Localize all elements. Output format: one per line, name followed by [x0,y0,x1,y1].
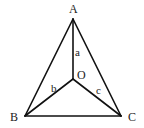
edge-ab [25,19,73,116]
segment-label-c: c [96,84,101,96]
vertex-label-b: B [10,110,18,124]
vertex-label-a: A [69,2,78,16]
segment-ob [25,79,73,116]
vertex-label-o: O [77,68,86,82]
triangle-diagram: A B C O a b c [0,0,144,128]
segment-label-a: a [75,46,80,58]
segment-label-b: b [51,82,57,94]
vertex-label-c: C [128,110,136,124]
